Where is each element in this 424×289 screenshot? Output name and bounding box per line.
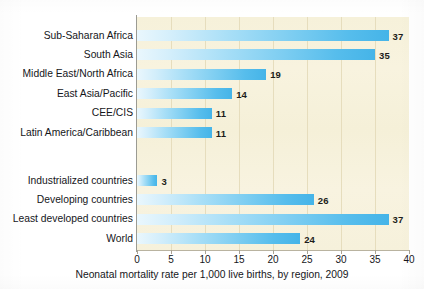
category-label: Least developed countries <box>2 213 133 224</box>
category-label: Sub-Saharan Africa <box>2 30 133 41</box>
bar <box>137 194 314 205</box>
category-label: Industrialized countries <box>2 175 133 186</box>
bar-row: 11 <box>137 127 409 138</box>
bar-row: 24 <box>137 233 409 244</box>
bar-value-label: 3 <box>161 175 166 186</box>
bar-value-label: 24 <box>304 233 315 244</box>
bar-row: 14 <box>137 88 409 99</box>
category-label: Latin America/Caribbean <box>2 127 133 138</box>
x-tick-label: 35 <box>369 254 380 265</box>
plot-area: 3735191411113263724 <box>137 17 409 250</box>
bar-row: 35 <box>137 49 409 60</box>
bar-value-label: 11 <box>216 127 226 138</box>
bar <box>137 30 389 41</box>
bar <box>137 88 232 99</box>
bar-value-label: 37 <box>393 30 404 41</box>
bar <box>137 214 389 225</box>
bar-value-label: 11 <box>216 108 226 119</box>
bar-row: 19 <box>137 69 409 80</box>
x-tick-label: 15 <box>233 254 244 265</box>
bar-value-label: 26 <box>318 194 329 205</box>
bar <box>137 233 300 244</box>
bar-value-label: 35 <box>379 49 390 60</box>
category-label: South Asia <box>2 49 133 60</box>
y-axis-line <box>136 15 137 252</box>
bar <box>137 175 157 186</box>
x-tick-label: 0 <box>134 254 140 265</box>
x-tick-label: 30 <box>335 254 346 265</box>
category-label: East Asia/Pacific <box>2 88 133 99</box>
x-tick-label: 5 <box>168 254 174 265</box>
bar-row: 3 <box>137 175 409 186</box>
bar-value-label: 14 <box>236 88 247 99</box>
category-label: World <box>2 233 133 244</box>
bar-value-label: 19 <box>270 69 281 80</box>
category-label: CEE/CIS <box>2 107 133 118</box>
x-tick-label: 40 <box>403 254 414 265</box>
bar <box>137 108 212 119</box>
bar-row: 11 <box>137 108 409 119</box>
bar <box>137 69 266 80</box>
x-tick-label: 20 <box>267 254 278 265</box>
bar <box>137 127 212 138</box>
category-label: Middle East/North Africa <box>2 68 133 79</box>
x-tick-label: 25 <box>301 254 312 265</box>
bar-row: 37 <box>137 30 409 41</box>
bar-value-label: 37 <box>393 214 404 225</box>
bar <box>137 49 375 60</box>
chart-container: 3735191411113263724 Sub-Saharan AfricaSo… <box>0 0 424 289</box>
bar-row: 26 <box>137 194 409 205</box>
category-label: Developing countries <box>2 194 133 205</box>
x-tick-label: 10 <box>199 254 210 265</box>
bar-row: 37 <box>137 214 409 225</box>
category-axis-labels: Sub-Saharan AfricaSouth AsiaMiddle East/… <box>0 0 133 289</box>
chart-caption: Neonatal mortality rate per 1,000 live b… <box>0 269 424 280</box>
